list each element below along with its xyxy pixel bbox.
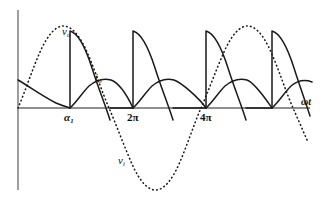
x-axis-label: ωt bbox=[301, 97, 311, 107]
waveform-figure: vo io vi α1 2π 4π ωt bbox=[0, 0, 326, 198]
output-voltage-label: vo bbox=[62, 26, 70, 37]
waveform-plot bbox=[0, 0, 326, 198]
output-current-curve bbox=[18, 79, 312, 108]
input-voltage-label: vi bbox=[118, 155, 125, 166]
output-current-label: io bbox=[95, 72, 101, 83]
firing-angle-tick-label: α1 bbox=[64, 112, 74, 123]
tick-label-2pi: 2π bbox=[127, 112, 139, 123]
tick-label-4pi: 4π bbox=[200, 112, 212, 123]
